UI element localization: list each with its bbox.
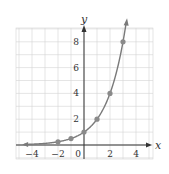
data-point xyxy=(94,117,99,122)
exponential-graph: −4−20242468 x y xyxy=(0,0,169,174)
y-tick-label: 6 xyxy=(73,63,79,73)
x-tick-label: 2 xyxy=(107,149,113,159)
y-axis-label: y xyxy=(80,13,88,26)
y-tick-label: 2 xyxy=(73,114,79,124)
x-tick-label: 0 xyxy=(75,149,81,159)
x-axis-label: x xyxy=(155,139,162,152)
data-point xyxy=(107,91,112,96)
x-tick-label: −4 xyxy=(25,149,39,159)
data-point xyxy=(81,130,86,135)
curve-arrow-icon xyxy=(124,18,129,26)
data-point xyxy=(120,39,125,44)
y-tick-label: 4 xyxy=(73,88,79,98)
tick-labels: −4−20242468 xyxy=(25,37,139,159)
x-tick-label: −2 xyxy=(51,149,64,159)
y-tick-label: 8 xyxy=(73,37,79,47)
axes xyxy=(16,25,152,159)
y-axis-arrow-icon xyxy=(82,25,87,32)
x-tick-label: 4 xyxy=(133,149,139,159)
data-point xyxy=(68,136,73,141)
curve-arrow-icon xyxy=(22,142,28,147)
data-point xyxy=(55,139,60,144)
